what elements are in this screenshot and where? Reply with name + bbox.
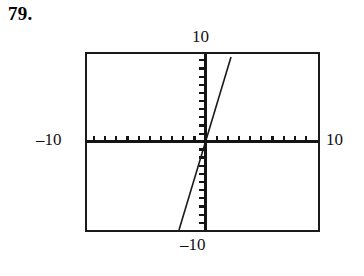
y-min-label: –10 [180,236,206,253]
y-max-label: 10 [192,28,209,45]
x-min-label: –10 [36,131,62,148]
exercise-number: 79. [8,4,33,23]
plot-area [87,54,318,230]
calculator-viewing-window [85,52,320,232]
textbook-figure-page: 79. [0,0,364,276]
x-max-label: 10 [326,131,343,148]
graph-svg [87,54,318,230]
